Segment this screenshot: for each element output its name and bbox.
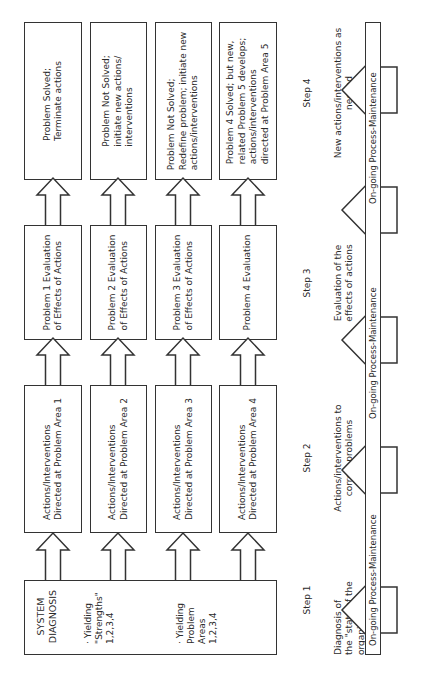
maintenance-arrows [0,0,422,683]
maintenance-bar-text-1: On-going Process-Maintenance [367,514,379,646]
maintenance-bar: On-going Process-Maintenance On-going Pr… [365,22,381,655]
organizational-diagnosis-flow-diagram: SYSTEM DIAGNOSIS · Yielding "Strengths" … [0,0,422,683]
maintenance-bar-text-3: On-going Process-Maintenance [367,72,379,204]
maintenance-bar-text-2: On-going Process-Maintenance [367,287,379,419]
